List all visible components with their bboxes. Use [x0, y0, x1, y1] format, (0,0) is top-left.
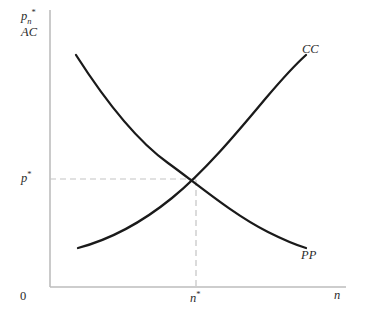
economics-figure: pn* AC p* 0 n* n CC PP: [0, 0, 379, 320]
curve-label-pp: PP: [301, 249, 316, 262]
y-tick-label-p-superscript: *: [27, 169, 31, 179]
curve-pp: [76, 55, 306, 248]
chart-canvas: [0, 0, 379, 320]
x-tick-label-n-superscript: *: [196, 289, 200, 299]
y-axis-label-pn-superscript: *: [32, 7, 36, 17]
curve-label-cc: CC: [302, 43, 319, 56]
curve-cc: [78, 55, 306, 248]
x-axis-label: n: [334, 289, 340, 302]
y-tick-label-p-star: p*: [21, 170, 32, 185]
x-tick-label-n-star: n*: [190, 290, 201, 305]
y-axis-label-ac: AC: [21, 26, 37, 39]
origin-label: 0: [20, 290, 26, 303]
y-axis-label-pn: pn*: [21, 8, 36, 25]
